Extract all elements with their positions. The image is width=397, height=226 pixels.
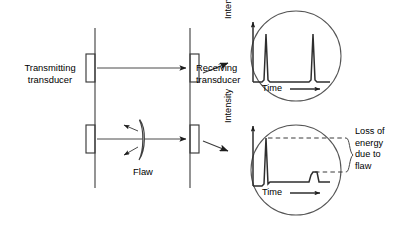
scope-top-intensity-axis-label: Intensity	[223, 0, 233, 28]
scope-bottom-time-axis-label: Time	[262, 187, 282, 197]
transmitting-transducer-label-line2: transducer	[14, 74, 86, 86]
scatter-arrow-upper	[124, 125, 138, 131]
scope-top-time-axis-label: Time	[262, 83, 282, 93]
scatter-arrow-lower	[124, 147, 138, 155]
transmitting-transducer-label-line1: Transmitting	[14, 62, 86, 74]
energy-loss-annotation: Loss of energy due to flaw	[355, 126, 397, 172]
transmitting-transducer-label: Transmitting transducer	[14, 62, 86, 86]
energy-loss-line2: energy	[355, 138, 397, 150]
pointer-arrow-to-bottom-scope	[203, 141, 228, 151]
transmitting-transducer-upper	[86, 54, 95, 82]
flaw-shape	[139, 120, 144, 160]
scope-bottom-intensity-axis-label: Intensity	[223, 80, 233, 132]
energy-loss-brace	[346, 138, 353, 172]
energy-loss-line3: due to	[355, 149, 397, 161]
ultrasonic-flaw-detection-diagram: Transmitting transducer Receiving transd…	[0, 0, 397, 226]
flaw-label: Flaw	[115, 166, 171, 177]
energy-loss-line4: flaw	[355, 161, 397, 173]
scope-bottom-waveform	[253, 138, 330, 186]
scope-top-waveform	[253, 34, 330, 82]
energy-loss-line1: Loss of	[355, 126, 397, 138]
receiving-transducer-lower	[190, 125, 199, 153]
diagram-canvas	[0, 0, 397, 226]
receiving-transducer-label-line1: Receiving	[196, 62, 256, 74]
transmitting-transducer-lower	[86, 125, 95, 153]
